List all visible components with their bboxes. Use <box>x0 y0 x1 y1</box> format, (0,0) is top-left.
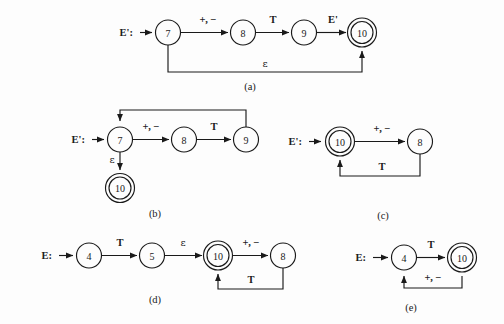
panel-d-edge-10-8-label: +, − <box>242 237 259 248</box>
panel-a-state-8-label: 8 <box>241 28 246 39</box>
panel-b-edge-7-8-label: +, − <box>142 121 159 132</box>
panel-a-edge-7-10-epsilon-label: ε <box>262 58 267 69</box>
panel-a-start-label: E': <box>120 27 133 38</box>
panel-d-state-5-label: 5 <box>150 251 155 262</box>
panel-d-start-label: E: <box>42 250 53 261</box>
panel-a-caption: (a) <box>244 81 256 93</box>
panel-c-edge-8-10-label: T <box>378 161 385 172</box>
panel-a-state-7-label: 7 <box>166 28 171 39</box>
panel-b-state-10-label: 10 <box>115 183 125 194</box>
panel-a-edge-9-10-label: E' <box>328 14 338 25</box>
panel-a-state-10-label: 10 <box>357 28 367 39</box>
panel-c-start-label: E': <box>289 136 302 147</box>
panel-e: E: 4 T 10 +, − (e) <box>356 239 477 314</box>
panel-c-state-8-label: 8 <box>418 137 423 148</box>
panel-d-edge-8-10-label: T <box>247 274 254 285</box>
panel-a-state-9-label: 9 <box>302 28 307 39</box>
panel-b-state-7-label: 7 <box>118 135 123 146</box>
panel-d-edge-5-10-epsilon-label: ε <box>180 237 185 248</box>
panel-d-caption: (d) <box>149 294 162 306</box>
panel-d-state-8-label: 8 <box>281 251 286 262</box>
panel-b-edge-9-7-loopback <box>120 110 246 127</box>
panel-d: E: 4 T 5 ε 10 +, − 8 T (d) <box>42 237 296 306</box>
panel-e-edge-10-4-label: +, − <box>424 272 441 283</box>
panel-e-state-4-label: 4 <box>402 253 407 264</box>
nfa-figure-container: E': 7 +, − 8 T 9 E' 10 ε (a) E': <box>0 0 504 324</box>
panel-b-state-8-label: 8 <box>182 135 187 146</box>
panel-e-start-label: E: <box>356 252 367 263</box>
nfa-diagram-svg: E': 7 +, − 8 T 9 E' 10 ε (a) E': <box>0 0 504 324</box>
panel-c: E': 10 +, − 8 T (c) <box>289 123 433 222</box>
panel-b-edge-7-10-epsilon-label: ε <box>109 154 114 165</box>
panel-c-state-10-label: 10 <box>335 137 345 148</box>
panel-c-edge-10-8-label: +, − <box>373 123 390 134</box>
panel-e-caption: (e) <box>405 302 417 314</box>
panel-e-state-10-label: 10 <box>457 253 467 264</box>
panel-a-edge-8-9-label: T <box>269 14 276 25</box>
panel-e-edge-4-10-label: T <box>427 239 434 250</box>
panel-b-edge-8-9-label: T <box>210 121 217 132</box>
panel-b-state-9-label: 9 <box>244 135 249 146</box>
panel-b-caption: (b) <box>149 208 162 220</box>
panel-d-edge-4-5-label: T <box>116 237 123 248</box>
panel-d-state-4-label: 4 <box>87 251 92 262</box>
panel-d-state-10-label: 10 <box>213 251 223 262</box>
panel-c-caption: (c) <box>377 210 389 222</box>
panel-a: E': 7 +, − 8 T 9 E' 10 ε (a) <box>120 14 377 93</box>
panel-a-edge-7-8-label: +, − <box>199 14 216 25</box>
panel-b-start-label: E': <box>72 134 85 145</box>
panel-b: E': 7 +, − 8 T 9 ε 10 (b) <box>72 110 259 220</box>
